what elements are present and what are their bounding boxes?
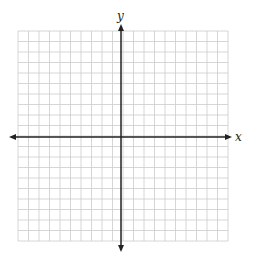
- arrow-down-icon: [118, 245, 124, 252]
- y-axis-label: y: [116, 9, 124, 23]
- grid: [18, 31, 228, 241]
- x-axis-label: x: [235, 130, 242, 144]
- arrow-up-icon: [118, 24, 124, 31]
- arrow-left-icon: [9, 134, 16, 140]
- coordinate-plane: x y: [0, 0, 255, 256]
- axes: [9, 24, 232, 252]
- arrow-right-icon: [225, 134, 232, 140]
